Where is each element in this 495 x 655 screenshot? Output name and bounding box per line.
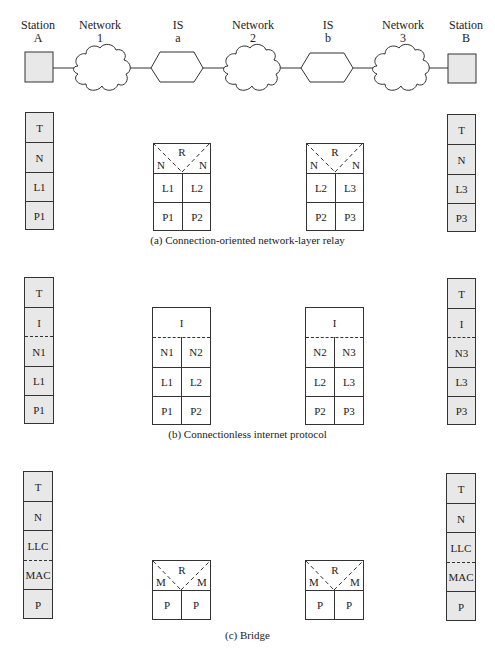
caption-c: (c) Bridge <box>0 629 495 641</box>
relay-right-label: N <box>349 158 363 172</box>
layer-t: T <box>448 115 475 144</box>
panel-c-station-b-stack: T N LLC MAC P <box>446 473 476 621</box>
layer-n3: N3 <box>448 337 475 367</box>
layer-l1: L1 <box>25 366 53 395</box>
is-a-hexagon-icon <box>151 52 203 82</box>
is-b-hexagon-icon <box>301 53 353 82</box>
cell: P3 <box>336 202 364 231</box>
layer-p3: P3 <box>448 396 475 425</box>
panel-c-is-a-stack: M R M P P <box>152 560 211 620</box>
layer-p3: P3 <box>448 203 475 232</box>
layer-mac: MAC <box>24 560 52 589</box>
cell: L2 <box>306 367 334 396</box>
topology-diagram <box>0 0 495 655</box>
cell: P2 <box>183 202 211 231</box>
cell: P <box>153 590 181 619</box>
panel-a-station-b-stack: T N L3 P3 <box>447 114 476 232</box>
cell: L2 <box>183 173 211 202</box>
relay-label: R <box>328 145 342 159</box>
cell: L2 <box>307 173 335 202</box>
caption-b: (b) Connectionless internet protocol <box>0 428 495 440</box>
layer-llc: LLC <box>24 530 52 560</box>
layer-t: T <box>26 113 53 142</box>
cell: L2 <box>182 367 210 396</box>
layer-n: N <box>447 503 475 533</box>
network-2-cloud-icon <box>224 44 281 90</box>
layer-p: P <box>24 589 52 619</box>
panel-a-is-a-stack: N R N L1 L2 P1 P2 <box>153 143 211 231</box>
layer-i: I <box>25 307 53 337</box>
cell: P <box>335 590 363 619</box>
layer-p1: P1 <box>26 201 53 230</box>
relay-label: R <box>328 563 342 577</box>
cell: P1 <box>154 202 182 231</box>
cell: L3 <box>336 173 364 202</box>
panel-c-station-a-stack: T N LLC MAC P <box>23 471 53 619</box>
relay-label: R <box>175 563 189 577</box>
layer-p1: P1 <box>25 395 53 424</box>
cell: N2 <box>182 337 210 367</box>
layer-mac: MAC <box>447 562 475 591</box>
panel-b-station-a-stack: T I N1 L1 P1 <box>24 277 54 424</box>
network-1-cloud-icon <box>74 44 131 90</box>
cell: P3 <box>335 396 363 425</box>
cell: N2 <box>306 337 334 367</box>
relay-right-label: M <box>195 575 209 589</box>
station-b-icon <box>448 54 476 83</box>
relay-left-label: M <box>307 575 321 589</box>
layer-n: N <box>448 144 475 174</box>
panel-a-station-a-stack: T N L1 P1 <box>25 112 54 230</box>
layer-n: N <box>24 501 52 531</box>
cell: P2 <box>307 202 335 231</box>
cell: P2 <box>306 396 334 425</box>
layer-n: N <box>26 142 53 172</box>
cell: N1 <box>153 337 181 367</box>
cell: L1 <box>153 367 181 396</box>
layer-t: T <box>24 472 52 501</box>
relay-left-label: M <box>154 575 168 589</box>
relay-right-label: M <box>348 575 362 589</box>
layer-l3: L3 <box>448 174 475 203</box>
cell: P1 <box>153 396 181 425</box>
layer-t: T <box>448 279 475 308</box>
layer-i: I <box>448 308 475 338</box>
cell: P2 <box>182 396 210 425</box>
relay-label: R <box>175 145 189 159</box>
cell: L3 <box>335 367 363 396</box>
relay-left-label: N <box>154 158 168 172</box>
layer-p: P <box>447 591 475 621</box>
cell: P <box>306 590 334 619</box>
layer-l1: L1 <box>26 172 53 201</box>
layer-l3: L3 <box>448 367 475 396</box>
cell: N3 <box>335 337 363 367</box>
network-3-cloud-icon <box>373 44 430 90</box>
cell: L1 <box>154 173 182 202</box>
relay-right-label: N <box>196 158 210 172</box>
relay-left-label: N <box>307 158 321 172</box>
panel-b-is-b-stack: I N2 N3 L2 L3 P2 P3 <box>305 307 364 425</box>
station-a-icon <box>25 52 53 82</box>
layer-i: I <box>306 308 363 337</box>
layer-llc: LLC <box>447 532 475 562</box>
layer-t: T <box>447 474 475 503</box>
layer-n1: N1 <box>25 336 53 366</box>
panel-b-station-b-stack: T I N3 L3 P3 <box>447 278 476 425</box>
layer-i: I <box>153 308 210 337</box>
panel-c-is-b-stack: M R M P P <box>305 560 364 620</box>
panel-b-is-a-stack: I N1 N2 L1 L2 P1 P2 <box>152 307 211 425</box>
panel-a-is-b-stack: N R N L2 L3 P2 P3 <box>306 143 364 231</box>
layer-t: T <box>25 278 53 307</box>
caption-a: (a) Connection-oriented network-layer re… <box>0 234 495 246</box>
cell: P <box>182 590 210 619</box>
